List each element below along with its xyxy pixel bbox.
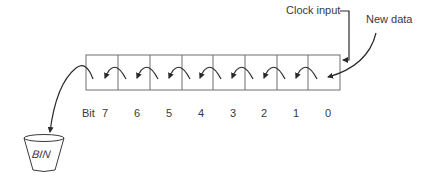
bit-prefix-label: Bit	[82, 108, 95, 119]
bit-label-5: 5	[166, 108, 172, 119]
clock-input-arrow-icon	[340, 11, 349, 60]
shift-arrow-icon	[105, 67, 126, 79]
bit-label-4: 4	[198, 108, 204, 119]
bit-label-3: 3	[230, 108, 236, 119]
bit-label-2: 2	[261, 108, 267, 119]
bin-label: BIN	[31, 149, 51, 160]
shift-arrow-icon	[137, 67, 158, 79]
bit-label-0: 0	[325, 108, 331, 119]
shift-register-diagram	[0, 0, 431, 182]
shift-arrow-icon	[232, 67, 253, 79]
shift-arrows	[105, 67, 317, 79]
bit-label-6: 6	[134, 108, 140, 119]
shift-arrow-icon	[169, 67, 190, 79]
shift-arrow-icon	[200, 67, 221, 79]
shift-arrow-icon	[264, 67, 285, 79]
bit-label-1: 1	[293, 108, 299, 119]
new-data-label: New data	[366, 14, 412, 25]
clock-input-label: Clock input	[286, 5, 340, 16]
overflow-arrow-icon	[50, 66, 93, 132]
bit-label-7: 7	[102, 108, 108, 119]
register-box	[86, 55, 340, 90]
shift-arrow-icon	[296, 67, 317, 79]
